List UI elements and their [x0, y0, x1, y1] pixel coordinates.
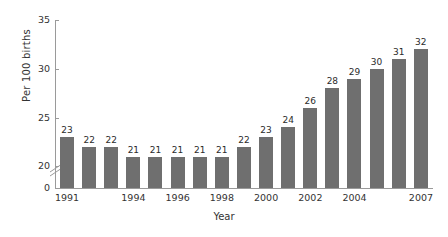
bar-value-label: 29	[349, 67, 360, 77]
bar-slot[interactable]: 21	[122, 20, 144, 188]
bar-value-label: 28	[327, 76, 338, 86]
bar-value-label: 30	[371, 57, 382, 67]
bar[interactable]	[215, 157, 229, 189]
x-axis-tick-label: 1998	[202, 192, 242, 203]
bar-value-label: 22	[106, 135, 117, 145]
bar-slot[interactable]: 30	[366, 20, 388, 188]
bar-value-label: 21	[128, 145, 139, 155]
bar-slot[interactable]: 28	[321, 20, 343, 188]
bar-value-label: 21	[194, 145, 205, 155]
bar[interactable]	[392, 59, 406, 188]
bar[interactable]	[60, 137, 74, 188]
bar-series: 2322222121212121222324262829303132	[56, 20, 432, 188]
bar[interactable]	[171, 157, 185, 189]
x-axis-tick-label: 2004	[335, 192, 375, 203]
bar[interactable]	[193, 157, 207, 189]
bar-slot[interactable]: 26	[299, 20, 321, 188]
x-axis-line	[56, 188, 433, 189]
x-axis-tick-label: 2002	[290, 192, 330, 203]
bar[interactable]	[370, 69, 384, 188]
bar[interactable]	[325, 88, 339, 188]
x-axis-tick-label: 1996	[158, 192, 198, 203]
y-axis-tick-label: 25	[10, 112, 50, 123]
bar-value-label: 31	[393, 47, 404, 57]
x-axis-tick-label: 2007	[401, 192, 441, 203]
bar-slot[interactable]: 23	[255, 20, 277, 188]
bar-slot[interactable]: 29	[343, 20, 365, 188]
bar-slot[interactable]: 23	[56, 20, 78, 188]
bar-value-label: 21	[172, 145, 183, 155]
x-axis-tick-label: 1994	[113, 192, 153, 203]
bar-chart: Per 100 births 020253035 232222212121212…	[0, 0, 448, 237]
bar[interactable]	[148, 157, 162, 189]
bar-slot[interactable]: 24	[277, 20, 299, 188]
bar-slot[interactable]: 22	[78, 20, 100, 188]
bar-value-label: 21	[216, 145, 227, 155]
bar-slot[interactable]: 21	[167, 20, 189, 188]
bar[interactable]	[414, 49, 428, 188]
bar-value-label: 22	[238, 135, 249, 145]
y-axis-tick-label: 35	[10, 14, 50, 25]
y-axis-tick-label: 30	[10, 63, 50, 74]
bar[interactable]	[104, 147, 118, 188]
bar[interactable]	[281, 127, 295, 188]
bar[interactable]	[303, 108, 317, 188]
y-axis-tick-label: 20	[10, 160, 50, 171]
bar-slot[interactable]: 22	[100, 20, 122, 188]
bar-value-label: 24	[282, 115, 293, 125]
bar[interactable]	[82, 147, 96, 188]
bar-value-label: 26	[305, 96, 316, 106]
bar-value-label: 23	[260, 125, 271, 135]
x-axis-title: Year	[0, 211, 448, 222]
bar-slot[interactable]: 32	[410, 20, 432, 188]
bar[interactable]	[259, 137, 273, 188]
bar-slot[interactable]: 21	[211, 20, 233, 188]
x-axis-tick-label: 2000	[246, 192, 286, 203]
bar-value-label: 21	[150, 145, 161, 155]
bar-slot[interactable]: 21	[144, 20, 166, 188]
bar-slot[interactable]: 31	[388, 20, 410, 188]
bar-value-label: 32	[415, 37, 426, 47]
bar-value-label: 23	[61, 125, 72, 135]
y-axis-tick-label: 0	[10, 182, 50, 193]
plot-area: 2322222121212121222324262829303132	[56, 20, 432, 188]
bar[interactable]	[347, 79, 361, 189]
bar[interactable]	[237, 147, 251, 188]
bar-slot[interactable]: 22	[233, 20, 255, 188]
bar-value-label: 22	[83, 135, 94, 145]
bar-slot[interactable]: 21	[189, 20, 211, 188]
bar[interactable]	[126, 157, 140, 189]
x-axis-tick-label: 1991	[47, 192, 87, 203]
